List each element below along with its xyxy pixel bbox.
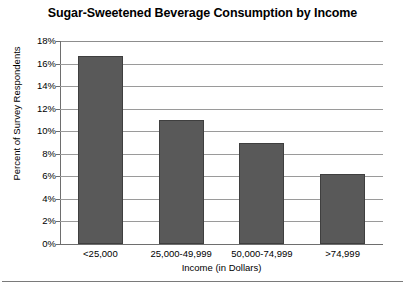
- y-axis-tick-labels: 18%16%14%12%10%8%6%4%2%0%: [18, 41, 56, 245]
- bar: [78, 56, 123, 244]
- bar: [239, 143, 284, 245]
- plot-bottom-axis: [60, 244, 383, 245]
- bar-chart: Sugar-Sweetened Beverage Consumption by …: [0, 0, 405, 293]
- bars: [60, 41, 383, 244]
- chart-title: Sugar-Sweetened Beverage Consumption by …: [0, 6, 405, 20]
- y-axis-tick-label: 14%: [37, 81, 56, 91]
- y-axis-tick-label: 8%: [42, 149, 56, 159]
- y-axis-tick-label: 6%: [42, 171, 56, 181]
- y-axis-tick-label: 4%: [42, 194, 56, 204]
- footer-divider: [2, 281, 403, 282]
- y-axis-tick: [56, 244, 60, 245]
- plot-area: [60, 41, 383, 244]
- bar: [159, 120, 204, 244]
- y-axis-tick-label: 2%: [42, 216, 56, 226]
- x-axis-tick-label: 25,000-49,999: [141, 248, 222, 260]
- x-axis-tick-label: <25,000: [60, 248, 141, 260]
- y-axis-tick-label: 18%: [37, 36, 56, 46]
- y-axis-tick-label: 12%: [37, 104, 56, 114]
- y-axis-title: Percent of Survey Respondents: [11, 14, 22, 214]
- bar: [320, 174, 365, 244]
- x-axis-tick-label: 50,000-74,999: [222, 248, 303, 260]
- y-axis-tick-label: 0%: [42, 239, 56, 249]
- y-axis-tick-label: 10%: [37, 126, 56, 136]
- y-axis-tick-label: 16%: [37, 59, 56, 69]
- x-axis-tick-label: >74,999: [302, 248, 383, 260]
- x-axis-title: Income (in Dollars): [60, 262, 383, 273]
- x-axis-tick-labels: <25,00025,000-49,99950,000-74,999>74,999: [60, 248, 383, 262]
